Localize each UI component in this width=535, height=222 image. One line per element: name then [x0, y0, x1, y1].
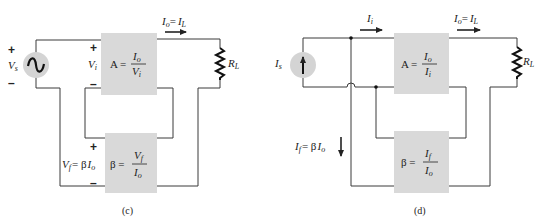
- wire-source-top: [303, 38, 394, 52]
- caption-c: (c): [122, 205, 133, 217]
- panel-d: Is Ii A = Io Ii Io=IL RL β = If Io If= β…: [274, 12, 535, 217]
- input-minus-sign: –: [90, 77, 97, 91]
- wire-amp-right-to-feedback-right: [157, 88, 173, 138]
- wire-amp-bottom-node-to-feedback: [376, 87, 394, 138]
- source-label: Vs: [8, 59, 18, 73]
- wire-load-bottom-to-feedback: [157, 80, 220, 186]
- wire-load-bottom-to-feedback: [449, 79, 517, 186]
- input-voltage-label: Vi: [88, 58, 97, 72]
- amplifier-gain-lhs: A =: [401, 58, 417, 70]
- source-plus-sign: +: [8, 43, 15, 57]
- wire-amp-minus-to-feedback-plus: [85, 88, 105, 138]
- feedback-circuits-figure: + – Vs A = Io Vi + Vi – Io=IL RL β = Vf …: [0, 0, 535, 222]
- caption-d: (d): [414, 205, 426, 217]
- output-current-label: Io=IL: [161, 15, 187, 29]
- load-label: RL: [522, 55, 535, 69]
- load-label: RL: [227, 57, 240, 71]
- input-current-label: Ii: [366, 12, 373, 26]
- current-source: [290, 52, 316, 78]
- load-resistor-icon: [513, 47, 521, 79]
- wire-input-node-to-feedback: [351, 38, 394, 186]
- voltage-source: [23, 52, 49, 78]
- output-current-label: Io=IL: [453, 12, 479, 26]
- panel-c: + – Vs A = Io Vi + Vi – Io=IL RL β = Vf …: [8, 15, 240, 217]
- feedback-plus-sign: +: [90, 140, 97, 154]
- source-minus-sign: –: [8, 76, 15, 90]
- feedback-gain-lhs: β =: [110, 158, 125, 170]
- load-resistor-icon: [216, 48, 224, 80]
- feedback-gain-lhs: β =: [401, 156, 416, 168]
- wire-amp-right-to-feedback: [449, 87, 466, 138]
- wire-amp-to-load-top: [157, 39, 220, 48]
- junction-dot: [349, 36, 353, 40]
- input-plus-sign: +: [90, 41, 97, 55]
- junction-dot: [374, 85, 378, 89]
- wire-source-bottom: [303, 78, 394, 87]
- wire-amp-to-load-top: [449, 38, 517, 47]
- amplifier-gain-lhs: A =: [110, 58, 126, 70]
- feedback-minus-sign: –: [90, 176, 97, 190]
- source-current-label: Is: [274, 57, 282, 71]
- feedback-current-label: If= βIo: [294, 140, 325, 154]
- feedback-voltage-label: Vf= βIo: [62, 158, 95, 172]
